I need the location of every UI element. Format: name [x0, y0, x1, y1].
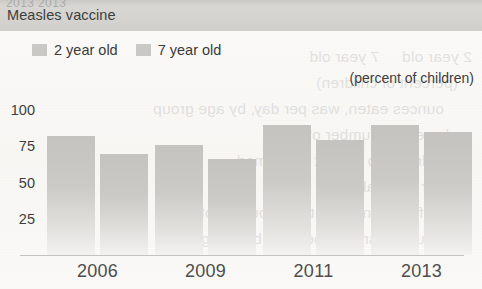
legend-item-2-year-old: 2 year old: [32, 42, 118, 58]
page-title: Measles vaccine: [7, 7, 116, 23]
bar: [316, 140, 364, 255]
x-axis-tick-label: 2013: [401, 261, 442, 282]
chart-legend: 2 year old 7 year old: [32, 42, 221, 58]
bar: [263, 125, 311, 256]
bar: [47, 136, 95, 255]
legend-swatch-icon: [136, 44, 151, 56]
bar: [208, 159, 256, 255]
x-axis-tick-label: 2009: [185, 261, 226, 282]
legend-item-7-year-old: 7 year old: [136, 42, 222, 58]
axis-units-label: (percent of children): [349, 70, 474, 86]
x-axis-line: [20, 255, 464, 256]
legend-label: 7 year old: [158, 42, 222, 58]
y-axis-tick-label: 25: [19, 211, 35, 227]
y-axis-tick-label: 50: [19, 175, 35, 191]
x-axis-tick-label: 2011: [294, 261, 334, 282]
bar: [424, 132, 472, 255]
legend-label: 2 year old: [54, 42, 118, 58]
bar: [371, 125, 419, 256]
bar: [155, 145, 203, 255]
legend-swatch-icon: [32, 44, 47, 56]
x-axis-tick-label: 2006: [77, 261, 118, 282]
bar: [100, 154, 148, 256]
y-axis-tick-label: 100: [11, 102, 35, 118]
y-axis-tick-label: 75: [19, 138, 35, 154]
